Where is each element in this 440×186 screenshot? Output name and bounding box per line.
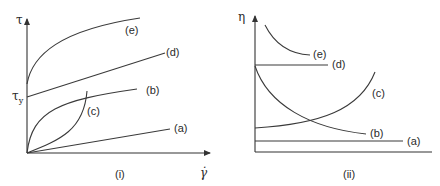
panel-ii-y-axis-label: η [238, 10, 245, 24]
panel-i-label-c: (c) [87, 105, 100, 117]
panel-i-label-d: (d) [166, 46, 179, 58]
panel-i-label-b: (b) [146, 84, 159, 96]
panel-ii-label-e: (e) [313, 48, 326, 60]
panel-ii-viscosity-curves: η (ii) (e) (d) (b) (c) (a) [238, 10, 432, 180]
panel-ii-label-d: (d) [332, 58, 345, 70]
panel-i-label-a: (a) [174, 122, 187, 134]
panel-i-curve-e [27, 18, 140, 84]
panel-ii-curve-e [265, 25, 310, 55]
panel-i-x-axis-label: γ̇ [200, 166, 208, 180]
panel-ii-label-a: (a) [407, 135, 420, 147]
panel-ii-curve-c [255, 72, 375, 128]
panel-i-curve-a [27, 129, 170, 153]
panel-ii-caption: (ii) [343, 168, 355, 180]
panel-i-curve-d [27, 53, 165, 97]
panel-i-flow-curves: τ τy γ̇ (i) (e) (d) (b) (c) (a) [12, 13, 210, 180]
panel-ii-label-c: (c) [372, 87, 385, 99]
panel-i-y-axis-label: τ [16, 13, 23, 27]
panel-ii-label-b: (b) [370, 127, 383, 139]
yield-stress-label: τy [12, 89, 24, 105]
panel-i-caption: (i) [115, 168, 125, 180]
panel-ii-curve-b [255, 66, 366, 134]
panel-i-label-e: (e) [125, 24, 138, 36]
rheology-diagram: τ τy γ̇ (i) (e) (d) (b) (c) (a) η (ii) (… [0, 0, 440, 186]
